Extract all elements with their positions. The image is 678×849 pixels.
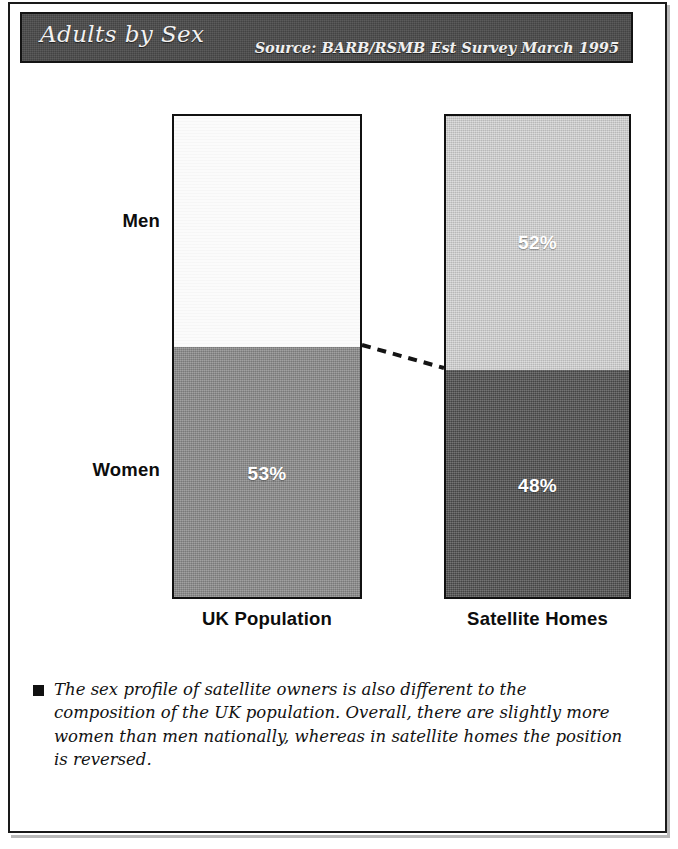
segment-uk-women-value: 53% — [248, 463, 287, 485]
segment-satellite-women[interactable]: 48% — [446, 370, 629, 599]
row-label-men: Men — [122, 210, 160, 232]
footnote-text: The sex profile of satellite owners is a… — [54, 678, 631, 772]
segment-satellite-women-value: 48% — [518, 475, 557, 497]
row-label-women: Women — [93, 459, 160, 481]
segment-uk-men[interactable] — [174, 116, 360, 347]
segment-satellite-men[interactable]: 52% — [446, 116, 629, 370]
category-label-satellite-homes: Satellite Homes — [444, 608, 631, 630]
category-label-uk-population: UK Population — [172, 608, 362, 630]
bar-satellite-homes[interactable]: 52% 48% — [444, 114, 631, 599]
bar-uk-population[interactable]: 53% — [172, 114, 362, 599]
chart-page: Adults by Sex Source: BARB/RSMB Est Surv… — [0, 0, 678, 849]
segment-satellite-men-value: 52% — [518, 232, 557, 254]
segment-uk-women[interactable]: 53% — [174, 347, 360, 599]
bullet-square-icon — [33, 685, 44, 696]
footnote: The sex profile of satellite owners is a… — [33, 678, 631, 772]
